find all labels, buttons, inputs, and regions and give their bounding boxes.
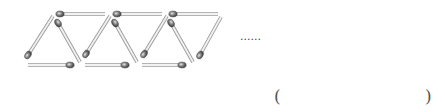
matchstick	[195, 17, 221, 60]
matchstick	[113, 11, 162, 17]
match-head-icon	[169, 11, 177, 17]
matchstick-triangles-figure	[0, 0, 230, 80]
answer-close-paren: )	[425, 86, 432, 106]
match-head-icon	[66, 62, 74, 68]
matchstick	[85, 62, 129, 68]
matchstick	[110, 18, 137, 62]
matchstick	[166, 18, 193, 62]
match-head-icon	[113, 11, 121, 17]
matchstick	[53, 18, 80, 62]
matchstick	[169, 11, 218, 17]
match-head-icon	[178, 62, 186, 68]
continuation-dots: ......	[240, 30, 261, 43]
match-head-icon	[121, 62, 129, 68]
answer-open-paren: (	[274, 86, 281, 106]
matchstick	[139, 16, 167, 59]
matchstick	[28, 62, 74, 68]
answer-blank[interactable]	[290, 88, 420, 106]
matchstick	[23, 16, 53, 60]
matchstick	[142, 62, 186, 68]
matchstick	[81, 16, 110, 59]
matchstick	[56, 11, 105, 17]
match-head-icon	[56, 11, 64, 17]
